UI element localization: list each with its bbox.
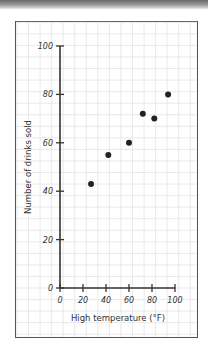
y-tick-label: 100 — [38, 42, 53, 51]
y-tick-label: 60 — [43, 139, 53, 148]
data-point — [105, 152, 111, 158]
x-tick-label: 80 — [147, 296, 157, 305]
y-tick-label: 40 — [43, 187, 53, 196]
data-point — [151, 116, 157, 122]
x-axis-ticks: 020406080100 — [57, 284, 182, 305]
x-tick-label: 100 — [167, 296, 182, 305]
x-axis-label: High temperature (°F) — [71, 313, 165, 323]
y-axis-label: Number of drinks sold — [23, 120, 33, 214]
y-tick-label: 0 — [48, 284, 53, 293]
x-tick-label: 0 — [57, 296, 62, 305]
scatter-plot: 020406080100 020406080100 High temperatu… — [0, 0, 208, 345]
data-point — [126, 140, 132, 146]
data-point — [165, 91, 171, 97]
x-tick-label: 40 — [101, 296, 111, 305]
x-tick-label: 20 — [78, 296, 88, 305]
data-point — [140, 111, 146, 117]
x-tick-label: 60 — [124, 296, 134, 305]
y-tick-label: 80 — [43, 90, 53, 99]
axes — [60, 46, 175, 288]
data-point — [88, 181, 94, 187]
y-tick-label: 20 — [43, 236, 53, 245]
